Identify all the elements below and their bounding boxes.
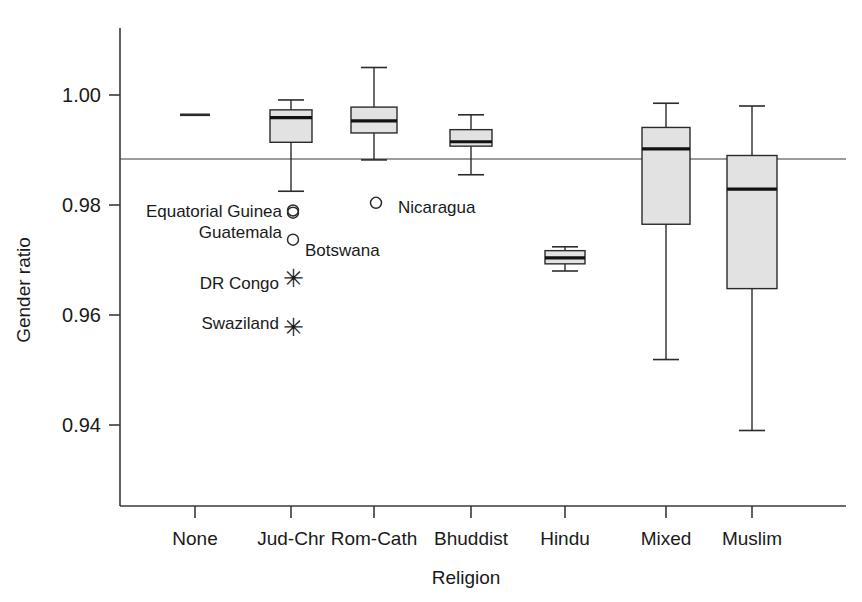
outlier-marker-swaziland: ✳ [283, 313, 304, 341]
x-axis-title: Religion [432, 567, 501, 588]
box-iqr [270, 110, 312, 142]
outlier-marker-dr-congo: ✳ [283, 264, 304, 292]
box-iqr [450, 130, 492, 147]
box-plot-chart: 1.00 0.98 0.96 0.94 Gender ratio None Ju… [0, 0, 862, 602]
box-plot-muslim [727, 106, 777, 431]
annotation-botswana: Botswana [305, 241, 380, 260]
annotation-dr-congo: DR Congo [200, 274, 279, 293]
y-axis-title: Gender ratio [13, 237, 34, 343]
category-label-rom-cath: Rom-Cath [331, 528, 418, 549]
y-tick-label: 0.96 [62, 304, 101, 326]
outlier-markers-layer: ✳✳ [283, 197, 382, 341]
category-label-mixed: Mixed [641, 528, 692, 549]
category-label-muslim: Muslim [722, 528, 782, 549]
x-axis-category-labels: None Jud-Chr Rom-Cath Bhuddist Hindu Mix… [172, 528, 782, 549]
annotation-guatemala: Guatemala [199, 223, 283, 242]
annotation-swaziland: Swaziland [202, 314, 280, 333]
y-tick-label: 0.98 [62, 194, 101, 216]
box-series-layer [180, 68, 777, 431]
box-plot-bhuddist [450, 115, 492, 175]
y-axis-ticks: 1.00 0.98 0.96 0.94 [62, 84, 120, 436]
category-label-jud-chr: Jud-Chr [257, 528, 325, 549]
box-plot-mixed [642, 103, 690, 359]
outlier-marker-botswana [288, 234, 299, 245]
y-tick-label: 1.00 [62, 84, 101, 106]
category-label-hindu: Hindu [540, 528, 590, 549]
annotation-nicaragua: Nicaragua [398, 198, 476, 217]
chart-canvas: 1.00 0.98 0.96 0.94 Gender ratio None Ju… [0, 0, 862, 602]
category-label-none: None [172, 528, 217, 549]
box-plot-jud-chr [270, 100, 312, 191]
box-plot-rom-cath [351, 68, 397, 160]
x-axis-ticks [195, 506, 752, 518]
annotation-equatorial-guinea: Equatorial Guinea [146, 202, 283, 221]
y-tick-label: 0.94 [62, 414, 101, 436]
box-iqr [642, 127, 690, 224]
outlier-annotations: Equatorial Guinea Guatemala Botswana DR … [146, 198, 476, 333]
box-iqr [727, 156, 777, 289]
category-label-bhuddist: Bhuddist [434, 528, 509, 549]
box-plot-hindu [545, 247, 585, 271]
outlier-marker-nicaragua [371, 197, 382, 208]
